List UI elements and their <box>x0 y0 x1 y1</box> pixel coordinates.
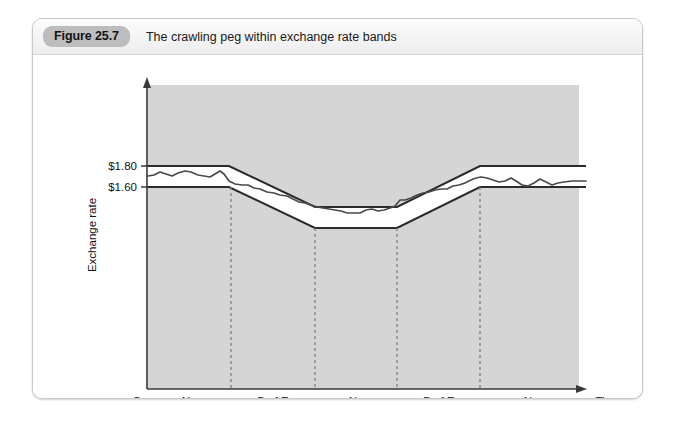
y-tick-label-upper: $1.80 <box>108 160 137 172</box>
figure-header: Figure 25.7 The crawling peg within exch… <box>33 19 642 55</box>
figure-body: THE ECONOMIST $1.80 $1.60 <box>33 55 642 398</box>
region-label-3-line1: No <box>349 395 364 398</box>
plot-background <box>147 85 579 389</box>
y-tick-label-lower: $1.60 <box>108 181 137 193</box>
exchange-rate-band-chart: THE ECONOMIST $1.80 $1.60 <box>33 55 642 398</box>
x-axis-title: Time <box>595 395 620 398</box>
y-axis-title: Exchange rate <box>86 198 98 272</box>
x-axis-arrow <box>576 385 587 393</box>
figure-title: The crawling peg within exchange rate ba… <box>146 30 397 44</box>
region-label-2-line1: B of E <box>257 395 289 398</box>
figure-card: Figure 25.7 The crawling peg within exch… <box>32 18 643 399</box>
region-label-4-line1: B of E <box>423 395 455 398</box>
y-axis-arrow <box>143 77 151 88</box>
region-label-5-line1: No <box>524 395 539 398</box>
region-label-1-line1: No <box>182 395 197 398</box>
origin-label: O <box>133 395 142 398</box>
figure-number-badge: Figure 25.7 <box>43 26 130 47</box>
